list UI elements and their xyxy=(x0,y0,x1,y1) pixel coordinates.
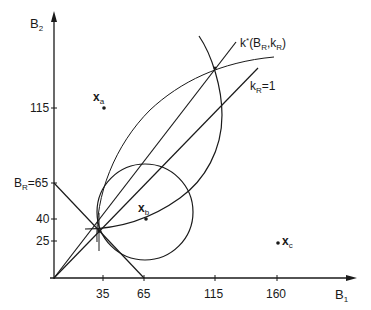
xc-label: xc xyxy=(282,235,293,249)
x-axis-arrow-icon xyxy=(346,275,357,281)
xa-label-sub: a xyxy=(100,97,104,106)
kr-label-sub: R xyxy=(256,86,262,95)
xc-label-sub: c xyxy=(289,241,293,250)
y-tick-40: 40 xyxy=(36,213,49,225)
upper-arc-curve xyxy=(97,57,274,242)
kstar-label-mid: ,k xyxy=(267,36,276,50)
kstar-label-sub1: R xyxy=(261,43,267,52)
y-axis-arrow-icon xyxy=(51,11,57,22)
br-label: BR=65 xyxy=(14,177,48,191)
y-tick-25: 25 xyxy=(36,235,49,247)
x-tick-65: 65 xyxy=(137,288,150,300)
kr1-line xyxy=(54,68,258,278)
kstar-label-sub2: R xyxy=(276,43,282,52)
point-xb xyxy=(144,217,148,221)
kstar-label-sup: * xyxy=(246,36,249,45)
br-label-sub: R xyxy=(22,183,28,192)
y-axis-label: B2 xyxy=(30,18,43,32)
x-tick-35: 35 xyxy=(96,288,109,300)
xb-label-sub: b xyxy=(145,208,149,217)
kstar-label: k*(BR,kR) xyxy=(240,37,286,51)
y-axis-label-sub: 2 xyxy=(39,24,43,33)
point-xc xyxy=(276,241,280,245)
kr-label: kR=1 xyxy=(250,80,275,94)
point-xa xyxy=(102,106,106,110)
xa-label: xa xyxy=(93,91,104,105)
kr-label-value: =1 xyxy=(262,79,276,93)
xc-label-main: x xyxy=(282,234,289,248)
kstar-label-open: (B xyxy=(249,36,261,50)
diagram-canvas xyxy=(0,0,371,310)
br-label-value: =65 xyxy=(28,176,48,190)
y-tick-115: 115 xyxy=(30,102,49,114)
intersection-point-p xyxy=(97,229,101,233)
x-axis-label-main: B xyxy=(335,287,344,302)
kstar-label-close: ) xyxy=(282,36,286,50)
xb-label-main: x xyxy=(138,201,145,215)
br-label-main: B xyxy=(14,176,22,190)
x-axis-label-sub: 1 xyxy=(344,295,348,304)
xb-label: xb xyxy=(138,202,149,216)
xa-label-main: x xyxy=(93,90,100,104)
large-arc-curve xyxy=(85,36,222,229)
x-tick-160: 160 xyxy=(266,288,286,300)
intersection-point-q xyxy=(214,67,217,70)
y-axis-label-main: B xyxy=(30,16,39,31)
kstar-line xyxy=(54,42,236,278)
x-tick-115: 115 xyxy=(204,288,223,300)
x-axis-label: B1 xyxy=(335,289,348,303)
